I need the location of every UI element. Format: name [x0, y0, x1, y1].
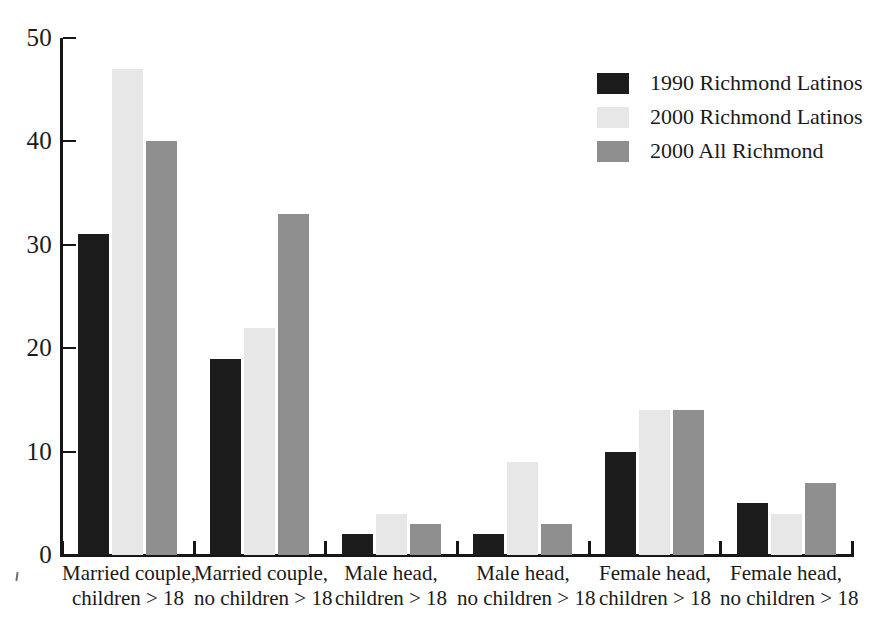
- x-axis-category-label: Male head,no children > 18: [457, 561, 589, 611]
- legend-item: 2000 Richmond Latinos: [597, 100, 863, 134]
- bar: [541, 524, 572, 555]
- category-label-line: no children > 18: [194, 586, 326, 611]
- category-label-line: Female head,: [589, 561, 721, 586]
- category-label-line: children > 18: [589, 586, 721, 611]
- category-label-line: no children > 18: [457, 586, 589, 611]
- bar-chart: 01020304050 Married couple,children > 18…: [0, 0, 879, 627]
- category-label-line: Male head,: [457, 561, 589, 586]
- bar: [78, 234, 109, 555]
- scan-artifact: [15, 572, 18, 581]
- bar: [146, 141, 177, 555]
- category-label-line: children > 18: [325, 586, 457, 611]
- x-axis-category-label: Married couple,no children > 18: [194, 561, 326, 611]
- x-axis-category-label: Female head,children > 18: [589, 561, 721, 611]
- bar: [737, 503, 768, 555]
- chart-legend: 1990 Richmond Latinos2000 Richmond Latin…: [597, 66, 863, 168]
- category-label-line: Female head,: [720, 561, 852, 586]
- bar-group: [342, 38, 441, 555]
- bar: [805, 483, 836, 555]
- bar: [410, 524, 441, 555]
- bar: [210, 359, 241, 555]
- bar: [473, 534, 504, 555]
- bar: [376, 514, 407, 555]
- bar-group: [78, 38, 177, 555]
- bar: [605, 452, 636, 555]
- legend-item: 2000 All Richmond: [597, 134, 863, 168]
- bar: [771, 514, 802, 555]
- bar: [673, 410, 704, 555]
- bar: [112, 69, 143, 555]
- category-label-line: Married couple,: [62, 561, 194, 586]
- legend-item: 1990 Richmond Latinos: [597, 66, 863, 100]
- category-label-line: no children > 18: [720, 586, 852, 611]
- medium-gray-swatch: [597, 141, 629, 162]
- legend-label: 2000 All Richmond: [650, 140, 824, 162]
- x-axis-category-label: Married couple,children > 18: [62, 561, 194, 611]
- bar-group: [473, 38, 572, 555]
- legend-label: 1990 Richmond Latinos: [650, 72, 863, 94]
- black-swatch: [597, 73, 629, 94]
- bar: [244, 328, 275, 555]
- category-label-line: Married couple,: [194, 561, 326, 586]
- bar-group: [210, 38, 309, 555]
- bar: [278, 214, 309, 555]
- bar: [507, 462, 538, 555]
- category-label-line: Male head,: [325, 561, 457, 586]
- bar: [639, 410, 670, 555]
- category-label-line: children > 18: [62, 586, 194, 611]
- x-axis-category-label: Female head,no children > 18: [720, 561, 852, 611]
- light-gray-swatch: [597, 107, 629, 128]
- bar: [342, 534, 373, 555]
- x-axis-category-label: Male head,children > 18: [325, 561, 457, 611]
- legend-label: 2000 Richmond Latinos: [650, 106, 863, 128]
